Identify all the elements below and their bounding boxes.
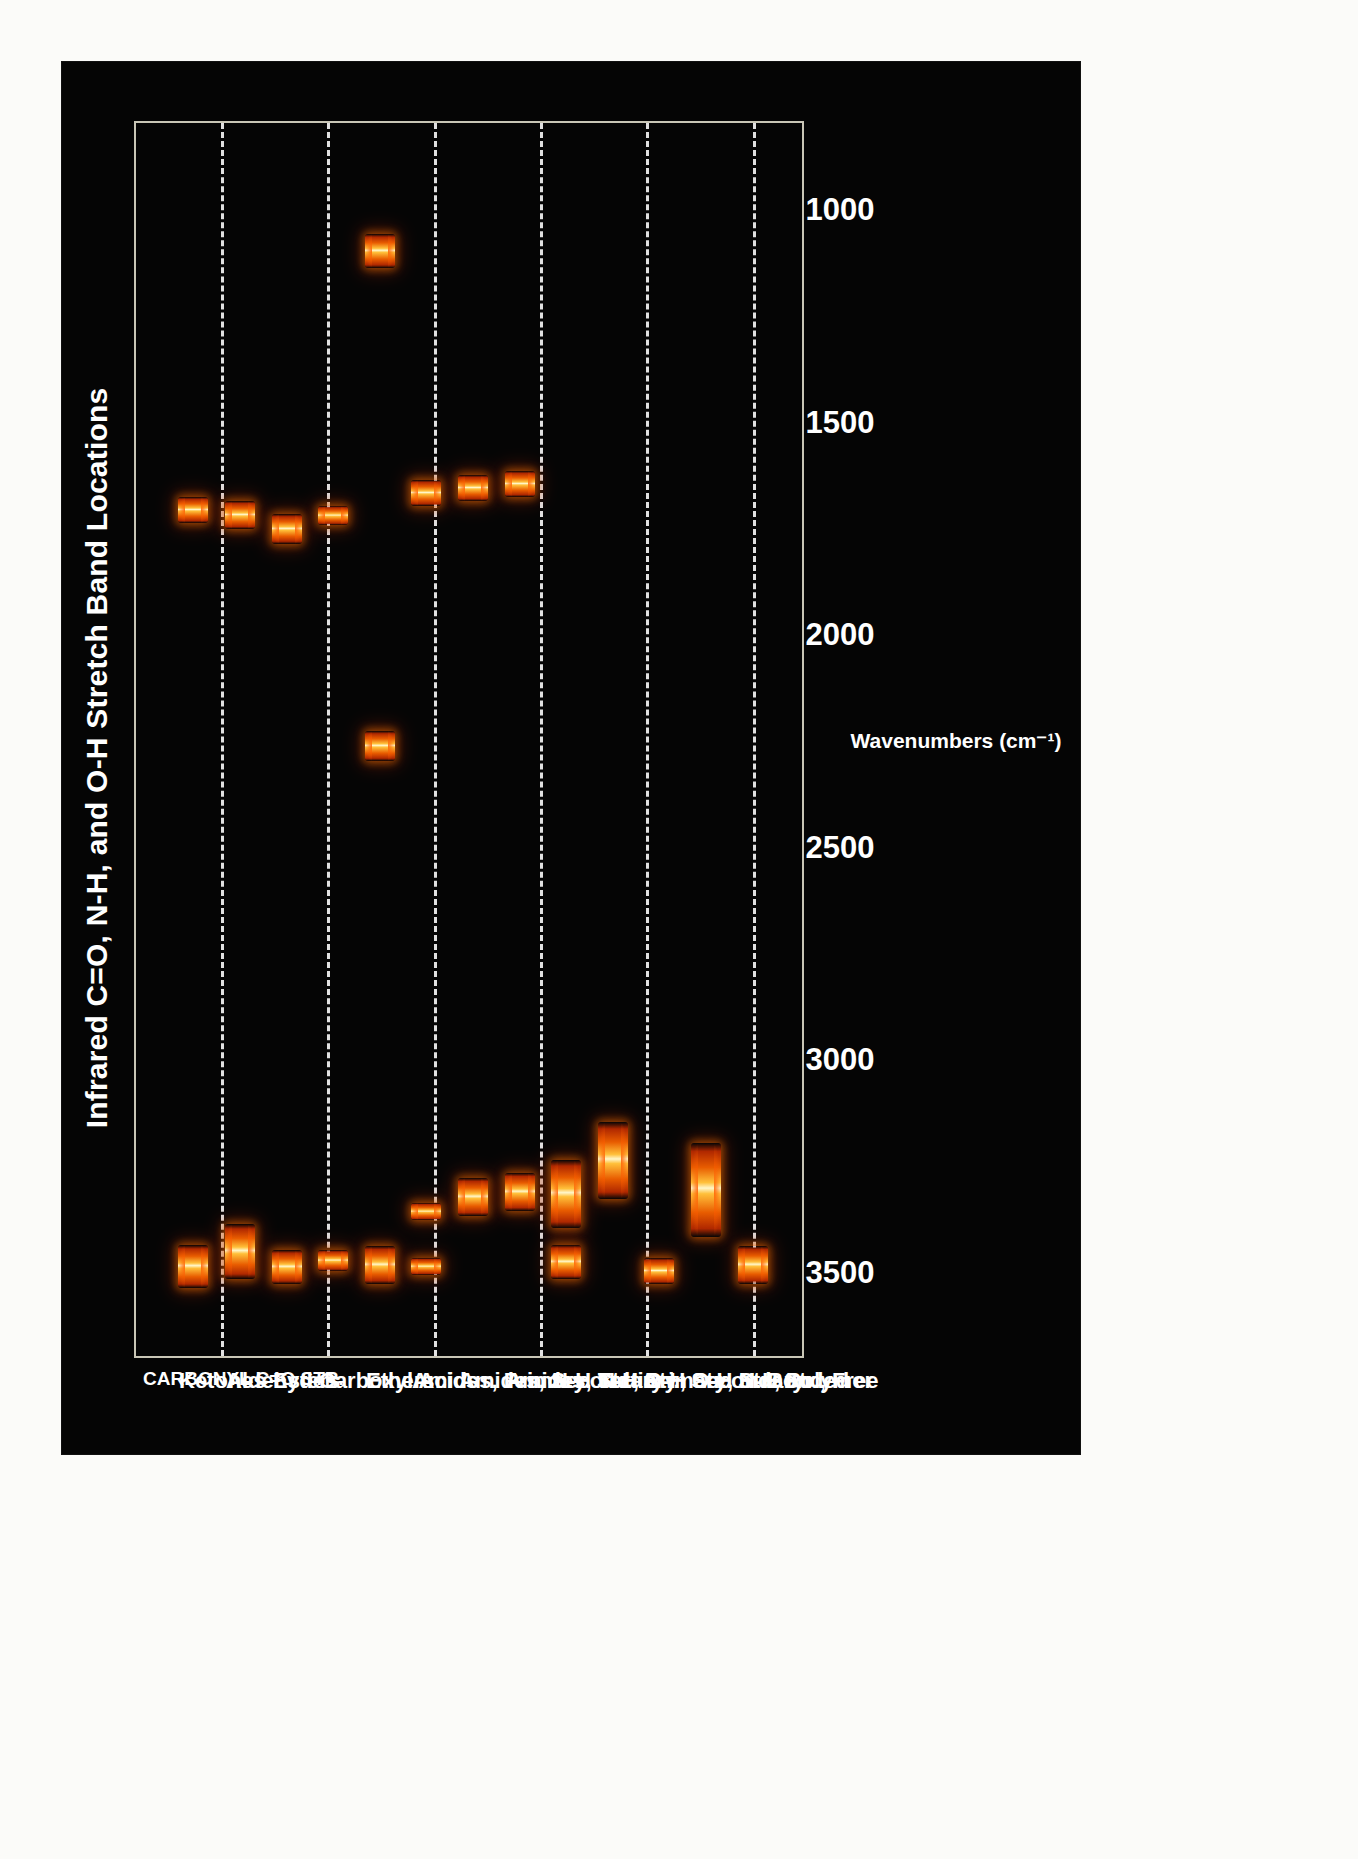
band-bar [411,480,441,506]
gridline [540,123,543,1356]
band-bar [178,1245,208,1288]
band-bar [738,1246,768,1284]
chart-title: Infrared C=O, N-H, and O-H Stretch Band … [80,62,114,1454]
band-bar [225,1224,255,1279]
band-bar [505,1173,535,1211]
band-bar [411,1258,441,1275]
chart-panel: Infrared C=O, N-H, and O-H Stretch Band … [62,62,1080,1454]
x-tick-label: 1000 [800,192,880,228]
x-tick-label: 3500 [800,1255,880,1291]
band-bar [644,1258,674,1284]
x-tick-label: 2500 [800,830,880,866]
band-bar [598,1122,628,1199]
band-bar [318,506,348,525]
band-bar [178,497,208,523]
band-bar [318,1250,348,1271]
band-bar [551,1160,581,1228]
x-tick-label: 3000 [800,1042,880,1078]
gridline [327,123,330,1356]
x-tick-label: 1500 [800,405,880,441]
plot-area [134,121,804,1358]
band-bar [458,475,488,501]
band-bar [505,471,535,497]
band-bar [365,1246,395,1284]
band-bar [365,234,395,268]
gridline [646,123,649,1356]
plot-inner [136,123,802,1356]
band-bar [365,731,395,761]
band-bar [411,1203,441,1220]
gridline [434,123,437,1356]
x-axis-label: Wavenumbers (cm⁻¹) [836,730,1076,754]
band-bar [272,1250,302,1284]
poster-page: Infrared C=O, N-H, and O-H Stretch Band … [0,0,1358,1859]
rotated-chart-stage: Infrared C=O, N-H, and O-H Stretch Band … [62,62,1080,1454]
gridline [753,123,756,1356]
band-bar [272,514,302,544]
gridline [221,123,224,1356]
band-bar [458,1178,488,1216]
band-bar [225,501,255,529]
x-tick-label: 2000 [800,617,880,653]
band-bar [691,1143,721,1237]
band-bar [551,1245,581,1279]
category-label: N-H Str., Free [739,1368,878,1394]
